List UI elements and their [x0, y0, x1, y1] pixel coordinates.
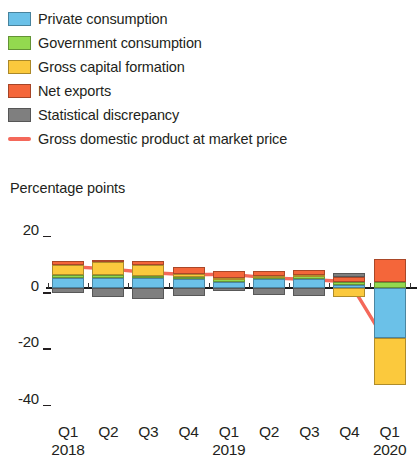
bar-group [253, 180, 285, 423]
bar-segment [333, 273, 365, 277]
bar-segment [253, 279, 285, 288]
bar-segment [253, 276, 285, 278]
y-axis-tick-mark [43, 292, 51, 294]
x-axis-tick-mark [169, 283, 170, 288]
bar-segment [52, 278, 84, 288]
y-axis-tick-label: 0 [0, 277, 39, 294]
bar-group [213, 180, 245, 423]
x-axis-year-label: 2020 [373, 441, 406, 455]
legend-swatch-wrap [0, 60, 38, 74]
square-swatch-icon [8, 60, 31, 74]
bar-segment [92, 288, 124, 297]
y-axis-tick-label: -20 [0, 333, 39, 350]
bar-segment [374, 338, 406, 385]
bar-segment [374, 282, 406, 288]
x-axis-quarter-label: Q4 [179, 423, 199, 441]
bar-segment [293, 288, 325, 296]
x-axis-tick-mark [289, 283, 290, 288]
bar-segment [92, 262, 124, 275]
bar-segment [52, 265, 84, 276]
bar-group [52, 180, 84, 423]
legend-item: Statistical discrepancy [0, 103, 417, 127]
y-axis-tick-mark [43, 236, 51, 238]
square-swatch-icon [8, 12, 31, 26]
bar-segment [132, 265, 164, 276]
y-axis-tick-label: 20 [0, 221, 39, 238]
bar-segment [173, 277, 205, 280]
bar-segment [132, 261, 164, 264]
square-swatch-icon [8, 108, 31, 122]
legend-item: Gross domestic product at market price [0, 127, 417, 151]
x-axis-quarter-label: Q1 [219, 423, 239, 441]
legend-swatch-wrap [0, 108, 38, 122]
legend-swatch-wrap [0, 84, 38, 98]
bar-group [374, 180, 406, 423]
legend-swatch-wrap [0, 137, 38, 141]
y-axis-tick-mark [43, 348, 51, 350]
square-swatch-icon [8, 84, 31, 98]
x-axis-tick-mark [48, 283, 49, 288]
bar-segment [173, 279, 205, 288]
x-axis-labels: Q1Q2Q3Q4Q1Q2Q3Q4Q1201820192020 [0, 423, 417, 455]
bar-segment [132, 278, 164, 288]
legend-item: Gross capital formation [0, 55, 417, 79]
line-swatch-icon [8, 137, 31, 141]
x-axis-tick-mark [128, 283, 129, 288]
square-swatch-icon [8, 36, 31, 50]
legend-item-label: Gross domestic product at market price [38, 131, 287, 147]
bar-group [92, 180, 124, 423]
bar-group [333, 180, 365, 423]
x-axis-quarter-label: Q1 [380, 423, 400, 441]
bar-segment [132, 288, 164, 299]
bar-segment [52, 261, 84, 264]
bar-segment [333, 282, 365, 286]
legend-swatch-wrap [0, 12, 38, 26]
bar-segment [213, 278, 245, 280]
bar-segment [52, 288, 84, 293]
x-axis-quarter-label: Q3 [138, 423, 158, 441]
bar-group [293, 180, 325, 423]
bar-segment [293, 279, 325, 288]
chart-legend: Private consumptionGovernment consumptio… [0, 0, 417, 151]
bar-segment [253, 271, 285, 276]
x-axis-year-label: 2018 [51, 441, 84, 455]
x-axis-tick-mark [329, 283, 330, 288]
x-axis-tick-mark [209, 283, 210, 288]
x-axis-tick-mark [88, 283, 89, 288]
plot-region: 200-20-40 [0, 180, 417, 423]
x-axis-tick-mark [410, 283, 411, 288]
bar-group [173, 180, 205, 423]
bar-segment [52, 275, 84, 278]
legend-item-label: Statistical discrepancy [38, 107, 179, 123]
bar-segment [173, 288, 205, 296]
bar-segment [213, 282, 245, 288]
bar-segment [173, 274, 205, 277]
bar-segment [213, 288, 245, 291]
x-axis-quarter-label: Q1 [58, 423, 78, 441]
x-axis-quarter-label: Q4 [339, 423, 359, 441]
y-axis-tick-mark [43, 405, 51, 407]
x-axis-tick-mark [249, 283, 250, 288]
legend-item-label: Gross capital formation [38, 59, 185, 75]
bar-segment [213, 271, 245, 278]
x-axis-year-label: 2019 [212, 441, 245, 455]
bar-segment [92, 278, 124, 288]
bar-segment [132, 276, 164, 279]
legend-item-label: Net exports [38, 83, 111, 99]
x-axis-tick-mark [370, 283, 371, 288]
legend-item-label: Government consumption [38, 35, 202, 51]
bar-segment [333, 277, 365, 282]
bar-segment [333, 288, 365, 297]
legend-item-label: Private consumption [38, 11, 167, 27]
x-axis-quarter-label: Q2 [98, 423, 118, 441]
bar-segment [253, 288, 285, 295]
legend-item: Net exports [0, 79, 417, 103]
legend-item: Private consumption [0, 7, 417, 31]
legend-item: Government consumption [0, 31, 417, 55]
bar-segment [374, 259, 406, 282]
bar-group [132, 180, 164, 423]
bar-segment [92, 275, 124, 278]
x-axis-quarter-label: Q2 [259, 423, 279, 441]
y-axis-tick-label: -40 [0, 390, 39, 407]
bar-segment [374, 288, 406, 338]
